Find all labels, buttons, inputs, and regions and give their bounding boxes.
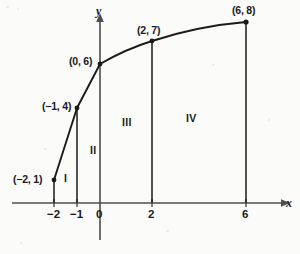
region-label-i: I (64, 173, 67, 184)
x-tick-label-2: 2 (148, 209, 154, 221)
x-tick-label-6: 6 (242, 209, 248, 221)
data-point-marker (243, 19, 248, 24)
scan-speck (166, 230, 169, 232)
region-label-iv: IV (186, 113, 197, 124)
y-axis-label: y (96, 5, 101, 17)
region-label-iii: III (122, 117, 132, 128)
x-tick-label-minus2: −2 (47, 209, 60, 221)
data-curve (54, 22, 246, 180)
x-tick-label-minus1: −1 (70, 209, 83, 221)
scan-speck (20, 242, 22, 244)
x-axis-label: x (286, 197, 292, 209)
figure-canvas: (−2, 1) (−1, 4) (0, 6) (2, 7) (6, 8) I I… (0, 0, 300, 254)
region-divider-lines (54, 22, 246, 203)
data-point-marker (150, 39, 155, 44)
point-label-6-8: (6, 8) (232, 5, 255, 16)
point-label-0-6: (0, 6) (69, 56, 92, 67)
scan-speck (212, 64, 215, 66)
data-point-marker (52, 178, 57, 183)
point-label-minus2-1: (−2, 1) (13, 174, 42, 185)
data-point-marker (98, 62, 103, 67)
region-label-ii: II (90, 145, 96, 156)
scan-speck (6, 6, 9, 8)
scan-speck (44, 148, 47, 150)
x-tick-label-0: 0 (96, 209, 102, 221)
y-axis (96, 13, 104, 240)
point-label-minus1-4: (−1, 4) (42, 101, 71, 112)
scan-speck (268, 118, 270, 121)
scan-speck (17, 8, 19, 10)
point-label-2-7: (2, 7) (137, 25, 160, 36)
data-point-marker (75, 106, 80, 111)
